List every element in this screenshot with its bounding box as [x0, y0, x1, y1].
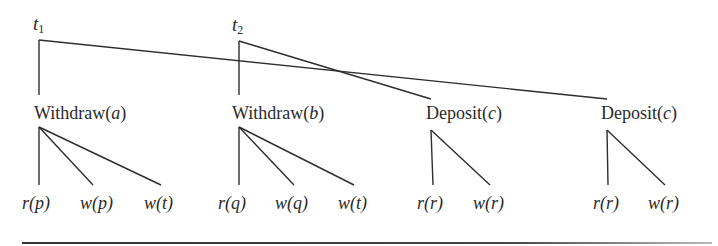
edge-op4-leaf-9 — [607, 130, 665, 185]
root-label-t1: t1 — [33, 14, 44, 35]
leaf-write-t-2: w(t) — [338, 194, 367, 212]
leaf-read-q: r(q) — [218, 194, 246, 212]
edge-op3-leaf-7 — [431, 130, 490, 185]
transaction-tree-diagram: t1 t2 Withdraw(a) Withdraw(b) Deposit(c)… — [0, 0, 718, 246]
edge-op2-leaf-5 — [239, 127, 354, 185]
operation-withdraw-a: Withdraw(a) — [34, 104, 126, 122]
edge-op2-leaf-4 — [239, 127, 294, 185]
leaf-write-q: w(q) — [275, 194, 308, 212]
leaf-write-p: w(p) — [80, 194, 113, 212]
leaf-read-r-1: r(r) — [417, 194, 443, 212]
root-label-t2: t2 — [232, 15, 243, 36]
leaf-read-r-2: r(r) — [593, 194, 619, 212]
edge-op4-leaf-8 — [607, 130, 608, 185]
edge-t2-op3 — [239, 41, 431, 99]
bottom-rule-divider — [22, 242, 712, 244]
edge-op3-leaf-6 — [431, 130, 433, 185]
leaf-write-r-1: w(r) — [473, 194, 504, 212]
leaf-write-t-1: w(t) — [144, 194, 173, 212]
operation-withdraw-b: Withdraw(b) — [232, 104, 324, 122]
edge-op1-leaf-1 — [39, 127, 93, 185]
edge-op1-leaf-2 — [39, 127, 161, 185]
operation-deposit-c-2: Deposit(c) — [601, 104, 677, 122]
edge-t1-op4 — [39, 40, 607, 99]
operation-deposit-c-1: Deposit(c) — [426, 104, 502, 122]
leaf-write-r-2: w(r) — [648, 194, 679, 212]
leaf-read-p: r(p) — [22, 194, 50, 212]
